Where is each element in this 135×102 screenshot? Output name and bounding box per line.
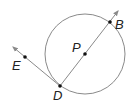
point-e <box>23 55 27 59</box>
point-b <box>108 20 112 24</box>
label-p: P <box>72 40 81 55</box>
label-b: B <box>115 17 124 32</box>
label-e: E <box>12 58 21 73</box>
point-p <box>83 52 87 56</box>
label-d: D <box>53 88 62 102</box>
geometry-diagram: B P D E <box>0 0 135 102</box>
